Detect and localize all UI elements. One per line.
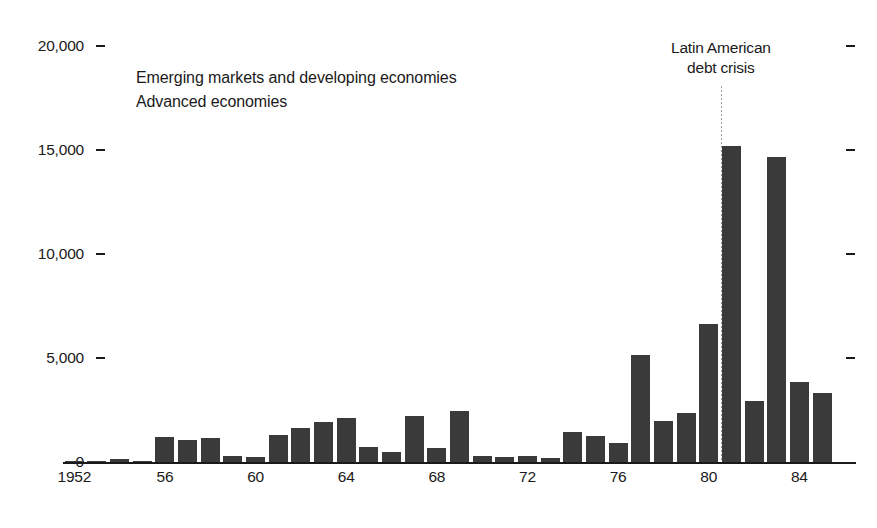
x-axis-baseline xyxy=(63,462,856,464)
x-tick-label: 1952 xyxy=(57,468,91,486)
bar xyxy=(450,411,469,462)
x-tick-label: 56 xyxy=(157,468,174,486)
bar xyxy=(586,436,605,462)
bar xyxy=(427,448,446,462)
x-tick-label: 68 xyxy=(428,468,445,486)
x-tick-label: 76 xyxy=(610,468,627,486)
bar xyxy=(631,355,650,462)
bar xyxy=(654,421,673,462)
bar xyxy=(178,440,197,462)
bars-container xyxy=(63,46,856,462)
x-tick-label: 80 xyxy=(700,468,717,486)
x-tick-label: 60 xyxy=(247,468,264,486)
x-tick-label: 64 xyxy=(338,468,355,486)
bar xyxy=(269,435,288,462)
bar xyxy=(155,437,174,462)
bar xyxy=(699,324,718,462)
bar xyxy=(314,422,333,462)
bar xyxy=(405,416,424,462)
bar xyxy=(790,382,809,462)
bar xyxy=(722,146,741,462)
bar xyxy=(201,438,220,462)
bar xyxy=(359,447,378,462)
bar xyxy=(609,443,628,462)
bar xyxy=(767,157,786,462)
bar xyxy=(563,432,582,462)
bar xyxy=(382,452,401,462)
bar xyxy=(337,418,356,462)
bar xyxy=(745,401,764,462)
bar xyxy=(813,393,832,462)
bar-chart: 20,000 15,000 10,000 5,000 0 Emerging ma… xyxy=(0,0,877,528)
bar xyxy=(291,428,310,462)
x-tick-label: 84 xyxy=(791,468,808,486)
bar xyxy=(677,413,696,462)
x-tick-label: 72 xyxy=(519,468,536,486)
